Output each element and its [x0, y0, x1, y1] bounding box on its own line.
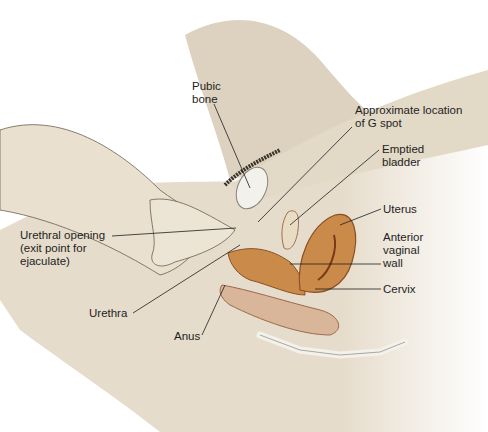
label-anterior-vaginal-wall: Anterior vaginal wall: [383, 231, 423, 270]
diagram-canvas: Pubic bone Approximate location of G spo…: [0, 0, 488, 432]
label-emptied-bladder: Emptied bladder: [382, 143, 424, 169]
label-anus: Anus: [174, 330, 200, 343]
label-urethral-opening: Urethral opening (exit point for ejacula…: [20, 229, 105, 268]
label-uterus: Uterus: [383, 203, 417, 216]
label-pubic-bone: Pubic bone: [192, 80, 221, 106]
label-cervix: Cervix: [383, 283, 416, 296]
anatomy-illustration: [0, 0, 488, 432]
label-urethra: Urethra: [89, 307, 127, 320]
label-g-spot: Approximate location of G spot: [355, 104, 462, 130]
